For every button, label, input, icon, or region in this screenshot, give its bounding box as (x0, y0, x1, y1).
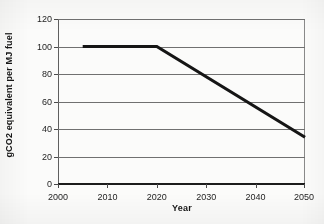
x-axis-tick (58, 184, 59, 188)
y-axis-title-text: gCO2 equivalent per MJ fuel (4, 32, 14, 157)
x-axis-tick-label: 2010 (97, 192, 117, 202)
x-axis-tick (107, 184, 108, 188)
y-axis-tick-label: 40 (42, 124, 52, 134)
y-axis-tick-label: 60 (42, 97, 52, 107)
series-path (83, 47, 305, 138)
x-axis-tick (157, 184, 158, 188)
x-axis-tick (256, 184, 257, 188)
x-axis-title: Year (58, 203, 306, 213)
y-axis-title: gCO2 equivalent per MJ fuel (0, 0, 18, 190)
x-axis-tick-label: 2020 (147, 192, 167, 202)
y-axis-tick-label: 0 (47, 179, 52, 189)
x-axis-tick-label: 2030 (196, 192, 216, 202)
x-axis-tick (206, 184, 207, 188)
y-axis-tick-label: 20 (42, 152, 52, 162)
y-axis-tick-label: 80 (42, 69, 52, 79)
data-series-line (58, 19, 305, 184)
x-axis-tick-label: 2050 (294, 192, 314, 202)
plot-area: 020406080100120 200020102020203020402050 (58, 19, 305, 184)
x-axis-tick (304, 184, 305, 188)
y-axis-tick-label: 120 (37, 14, 52, 24)
chart-figure: gCO2 equivalent per MJ fuel 020406080100… (0, 0, 324, 224)
y-axis-tick-label: 100 (37, 42, 52, 52)
x-axis-tick-label: 2000 (48, 192, 68, 202)
x-axis-tick-label: 2040 (246, 192, 266, 202)
